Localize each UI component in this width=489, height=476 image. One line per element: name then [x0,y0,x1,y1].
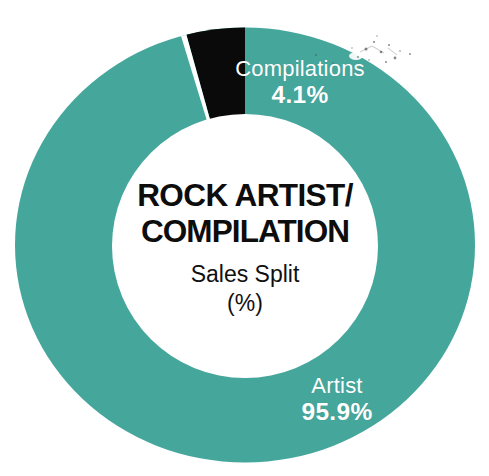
donut-chart-graphic [0,0,489,476]
donut-chart: ROCK ARTIST/ COMPILATION Sales Split (%)… [0,0,489,476]
donut-hole [112,114,378,378]
